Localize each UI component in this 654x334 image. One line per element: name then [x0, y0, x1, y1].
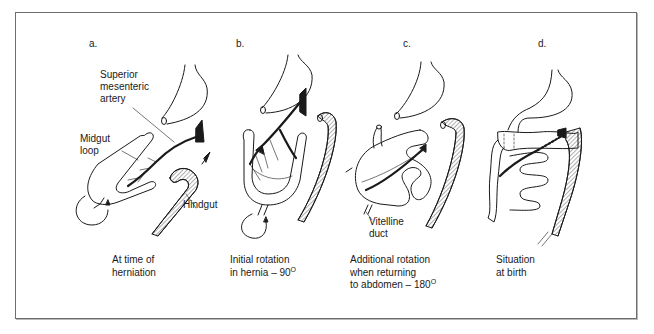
stomach-d: [508, 70, 572, 132]
label-superior-mesenteric-artery: Superior mesenteric artery: [100, 69, 149, 105]
midgut-loop-b: [243, 130, 306, 205]
panel-c-drawing: [346, 62, 464, 228]
caption-panel-d: Situation at birth: [496, 254, 535, 279]
label-midgut-loop: Midgut loop: [80, 133, 110, 157]
stomach-a: [162, 65, 207, 124]
panel-letter-d: d.: [538, 38, 546, 49]
caption-panel-c: Additional rotation when returning to ab…: [350, 254, 436, 292]
midgut-loop-c: [355, 130, 431, 206]
panel-b-drawing: [242, 55, 337, 238]
stomach-c: [396, 62, 444, 118]
panel-letter-b: b.: [236, 38, 244, 49]
panel-letter-c: c.: [403, 38, 411, 49]
midgut-rotation-illustration: [0, 0, 654, 334]
panel-d-drawing: [488, 70, 582, 246]
label-vitelline-duct: Vitelline duct: [369, 216, 404, 240]
panel-letter-a: a.: [89, 38, 97, 49]
caption-panel-b: Initial rotation in hernia – 90O: [230, 254, 296, 279]
caption-panel-a: At time of herniation: [112, 254, 156, 279]
label-hindgut: Hindgut: [183, 199, 217, 211]
